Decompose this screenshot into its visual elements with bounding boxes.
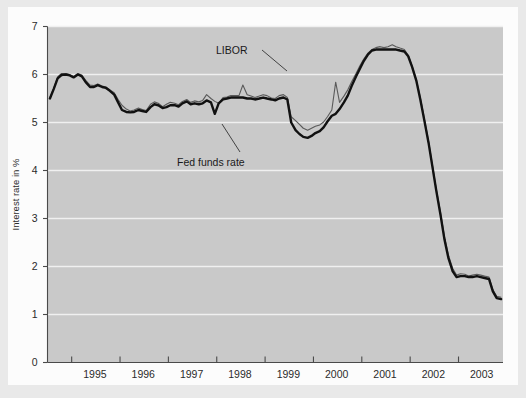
- x-tick-label: 1999: [277, 368, 301, 380]
- y-axis-title: Interest rate in %: [10, 158, 21, 230]
- y-tick-label: 0: [32, 356, 38, 368]
- x-tick-label: 1996: [132, 368, 156, 380]
- y-tick-label: 4: [32, 164, 38, 176]
- y-tick-label: 2: [32, 260, 38, 272]
- x-tick-label: 2000: [325, 368, 349, 380]
- x-tick-label: 1997: [180, 368, 204, 380]
- y-tick-label: 3: [32, 212, 38, 224]
- figure-container: 0123456719951996199719981999200020012002…: [0, 0, 526, 398]
- y-tick-label: 1: [32, 308, 38, 320]
- x-tick-label: 1995: [83, 368, 107, 380]
- y-tick-label: 6: [32, 68, 38, 80]
- x-tick-label: 2001: [373, 368, 397, 380]
- interest-rate-chart: 0123456719951996199719981999200020012002…: [0, 0, 526, 398]
- annotation-label-libor: LIBOR: [216, 44, 248, 56]
- annotation-label-fed-funds-rate: Fed funds rate: [177, 156, 245, 168]
- plot-area-background: [48, 27, 504, 363]
- x-tick-label: 2002: [422, 368, 446, 380]
- y-tick-label: 5: [32, 116, 38, 128]
- chart-svg: 0123456719951996199719981999200020012002…: [0, 0, 526, 398]
- x-tick-label: 2003: [470, 368, 494, 380]
- x-tick-label: 1998: [228, 368, 252, 380]
- y-tick-label: 7: [32, 20, 38, 32]
